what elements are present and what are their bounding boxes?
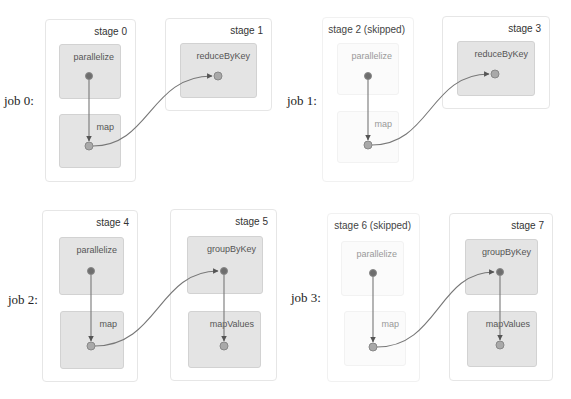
stage-title: stage 4: [96, 217, 129, 228]
stage-0[interactable]: stage 0 parallelize map: [45, 19, 136, 182]
op-title: groupByKey: [482, 247, 531, 257]
stage-title: stage 1: [230, 25, 263, 36]
op-title: parallelize: [73, 52, 114, 62]
op-parallelize[interactable]: parallelize: [337, 43, 399, 95]
stage-1[interactable]: stage 1 reduceByKey: [165, 18, 272, 111]
op-parallelize[interactable]: parallelize: [341, 241, 404, 296]
op-title: reduceByKey: [196, 51, 250, 61]
op-title: parallelize: [356, 249, 397, 259]
job-2-label: job 2:: [8, 292, 38, 308]
op-title: parallelize: [76, 245, 117, 255]
op-title: parallelize: [351, 51, 392, 61]
stage-2[interactable]: stage 2 (skipped) parallelize map: [322, 17, 414, 182]
op-reducebykey[interactable]: reduceByKey: [457, 41, 535, 96]
job-3-label: job 3:: [291, 290, 321, 306]
op-parallelize[interactable]: parallelize: [59, 44, 121, 99]
stage-5[interactable]: stage 5 groupByKey mapValues: [170, 209, 277, 381]
op-parallelize[interactable]: parallelize: [59, 237, 124, 295]
op-reducebykey[interactable]: reduceByKey: [180, 43, 257, 98]
op-map[interactable]: map: [344, 311, 406, 366]
op-title: map: [374, 119, 392, 129]
op-map[interactable]: map: [59, 114, 121, 168]
op-title: map: [96, 122, 114, 132]
op-map[interactable]: map: [337, 111, 399, 163]
stage-7[interactable]: stage 7 groupByKey mapValues: [449, 213, 553, 381]
stage-3[interactable]: stage 3 reduceByKey: [442, 16, 550, 109]
op-groupbykey[interactable]: groupByKey: [465, 239, 538, 295]
stage-title: stage 6 (skipped): [334, 220, 411, 231]
op-title: groupByKey: [207, 244, 256, 254]
op-title: map: [381, 319, 399, 329]
op-groupbykey[interactable]: groupByKey: [187, 236, 263, 294]
op-mapvalues[interactable]: mapValues: [188, 311, 261, 368]
op-title: mapValues: [210, 319, 254, 329]
stage-title: stage 5: [235, 216, 268, 227]
op-mapvalues[interactable]: mapValues: [467, 311, 537, 367]
stage-4[interactable]: stage 4 parallelize map: [42, 210, 138, 382]
stage-6[interactable]: stage 6 (skipped) parallelize map: [327, 213, 420, 382]
stage-title: stage 0: [94, 26, 127, 37]
op-title: mapValues: [486, 319, 530, 329]
stage-title: stage 7: [511, 220, 544, 231]
op-map[interactable]: map: [60, 311, 124, 369]
op-title: map: [99, 319, 117, 329]
job-1-label: job 1:: [287, 93, 317, 109]
stage-title: stage 2 (skipped): [328, 24, 405, 35]
stage-title: stage 3: [508, 23, 541, 34]
op-title: reduceByKey: [474, 49, 528, 59]
job-0-label: job 0:: [4, 93, 34, 109]
